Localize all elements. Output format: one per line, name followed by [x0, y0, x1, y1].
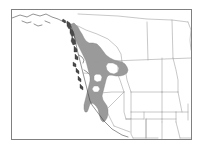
range-gap-southern	[92, 86, 100, 92]
map-canvas	[0, 0, 203, 152]
range-gap-willamette	[94, 74, 102, 82]
range-map-figure	[0, 0, 203, 152]
